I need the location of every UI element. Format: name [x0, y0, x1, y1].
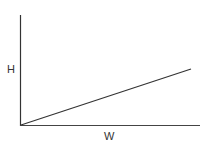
data-line: [21, 69, 191, 125]
x-axis-label: W: [104, 131, 114, 142]
diagram-canvas: [0, 0, 211, 149]
y-axis-label: H: [7, 64, 15, 75]
